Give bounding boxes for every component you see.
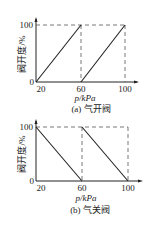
figure: 100 0 20 60 100 p/kPa 阀开度/% (a) 气开阀 100 … — [0, 0, 149, 235]
chart-a: 100 0 20 60 100 p/kPa 阀开度/% (a) 气开阀 — [16, 17, 139, 114]
y-tick-100: 100 — [20, 20, 34, 30]
chart-b: 100 0 20 60 100 p/kPa 阀开度/% (b) 气关阀 — [16, 119, 143, 215]
series-line-1 — [36, 25, 81, 82]
series-line-2 — [81, 25, 125, 82]
y-axis-label: 阀开度/% — [16, 35, 27, 73]
y-axis-label: 阀开度/% — [16, 135, 27, 173]
series-line-1 — [36, 127, 82, 181]
y-tick-100: 100 — [20, 122, 34, 132]
y-tick-0: 0 — [30, 176, 35, 186]
y-tick-0: 0 — [30, 77, 35, 87]
x-tick-20: 20 — [37, 183, 47, 193]
x-tick-100: 100 — [118, 84, 132, 94]
y-axis-arrow-icon — [35, 17, 38, 22]
chart-title: (a) 气开阀 — [71, 103, 110, 114]
x-axis-label: p/kPa — [75, 193, 97, 203]
x-tick-60: 60 — [78, 183, 88, 193]
x-tick-20: 20 — [37, 84, 47, 94]
x-tick-100: 100 — [121, 183, 135, 193]
y-axis-arrow-icon — [35, 119, 38, 124]
chart-title: (b) 气关阀 — [70, 204, 110, 215]
x-axis-arrow-icon — [134, 81, 139, 84]
x-axis-arrow-icon — [138, 180, 143, 183]
x-axis-label: p/kPa — [74, 93, 96, 103]
series-line-2 — [82, 127, 128, 181]
